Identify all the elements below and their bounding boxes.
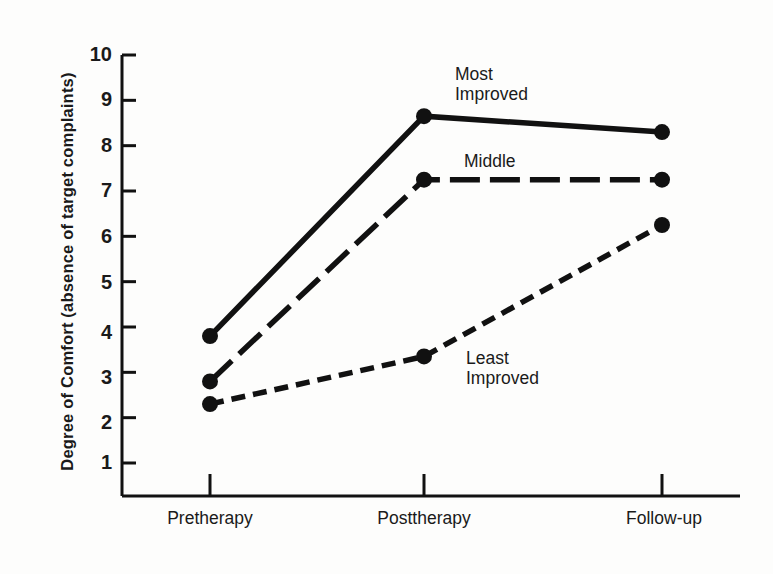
chart-plot-svg <box>0 0 773 574</box>
data-point-marker <box>416 348 432 364</box>
y-axis-ticks <box>122 55 136 463</box>
x-axis-ticks <box>210 474 662 496</box>
data-point-marker <box>416 108 432 124</box>
data-point-marker <box>654 124 670 140</box>
axis-spines <box>122 55 740 496</box>
data-point-marker <box>654 172 670 188</box>
data-point-marker <box>654 217 670 233</box>
series-line-most-improved <box>210 116 662 336</box>
data-point-marker <box>202 328 218 344</box>
data-point-marker <box>202 396 218 412</box>
series-lines <box>210 116 662 404</box>
data-point-marker <box>416 172 432 188</box>
chart-figure: Degree of Comfort (absence of target com… <box>0 0 773 574</box>
data-point-marker <box>202 373 218 389</box>
